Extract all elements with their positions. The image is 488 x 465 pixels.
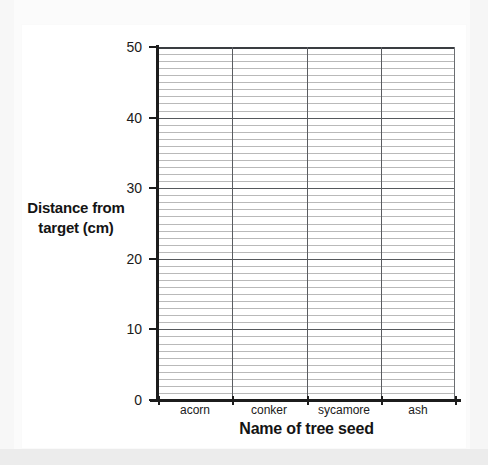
x-axis-title: Name of tree seed — [158, 420, 455, 438]
y-tick-label-40: 40 — [108, 111, 142, 125]
x-category-label-acorn: acorn — [158, 403, 232, 417]
chart-figure: 01020304050 acornconkersycamoreash Dista… — [0, 0, 488, 465]
y-axis-line — [156, 45, 159, 402]
y-axis-title-line-1: Distance from — [12, 198, 140, 218]
category-divider-4 — [454, 47, 455, 400]
x-axis-line — [150, 399, 461, 402]
y-axis-title: Distance from target (cm) — [12, 198, 140, 238]
category-divider-2 — [307, 47, 308, 400]
x-category-label-conker: conker — [232, 403, 306, 417]
y-tick-label-50: 50 — [108, 40, 142, 54]
plot-area — [158, 47, 455, 400]
y-tick-30 — [149, 187, 158, 189]
y-tick-label-10: 10 — [108, 322, 142, 336]
y-tick-20 — [149, 258, 158, 260]
y-tick-label-0: 0 — [108, 393, 142, 407]
y-tick-label-20: 20 — [108, 252, 142, 266]
x-category-label-sycamore: sycamore — [307, 403, 381, 417]
page-root: 01020304050 acornconkersycamoreash Dista… — [0, 0, 488, 465]
category-divider-1 — [232, 47, 233, 400]
y-tick-label-30: 30 — [108, 181, 142, 195]
y-tick-10 — [149, 328, 158, 330]
x-category-label-ash: ash — [381, 403, 455, 417]
x-tick-4 — [455, 396, 457, 405]
y-tick-50 — [149, 46, 158, 48]
category-divider-3 — [381, 47, 382, 400]
y-tick-0 — [149, 399, 158, 401]
y-axis-title-line-2: target (cm) — [12, 218, 140, 238]
y-tick-40 — [149, 117, 158, 119]
